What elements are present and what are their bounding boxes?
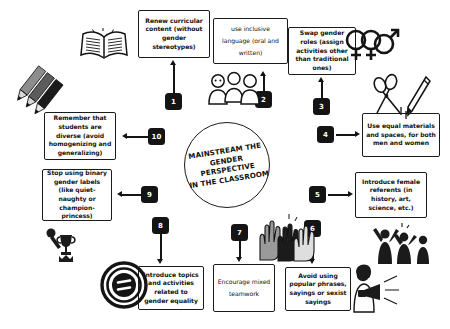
connector-arrowhead-3 — [318, 77, 324, 82]
step-badge-10: 10 — [148, 128, 165, 145]
step-box-9: Stop using binary gender labels (like qu… — [42, 169, 112, 221]
open-book-icon — [78, 28, 130, 64]
connector-arrowhead-10 — [122, 133, 127, 139]
step-badge-8: 8 — [152, 217, 169, 234]
connector-line-7 — [239, 241, 241, 258]
connector-line-8 — [160, 234, 162, 260]
connector-arrowhead-5 — [348, 191, 353, 197]
connector-line-4 — [336, 134, 356, 136]
step-badge-7: 7 — [231, 224, 248, 241]
step-box-7: Encourage mixed teamwork — [213, 264, 275, 312]
colored-pencils-icon — [16, 74, 72, 122]
interlocking-gender-symbols-icon — [340, 22, 402, 64]
connector-arrowhead-8 — [157, 259, 163, 264]
connector-arrowhead-1 — [170, 60, 176, 65]
connector-arrowhead-9 — [117, 191, 122, 197]
equality-sign-seal-icon — [100, 261, 148, 309]
scissors-and-pencil-icon — [370, 75, 434, 123]
step-badge-9: 9 — [141, 186, 158, 203]
center-title-circle: MAINSTREAM THE GENDER PERSPECTIVE IN THE… — [184, 122, 270, 208]
step-badge-4: 4 — [317, 126, 334, 143]
celebrating-women-silhouettes-icon — [372, 222, 434, 266]
person-with-megaphone-icon — [342, 262, 402, 314]
connector-arrowhead-2 — [260, 71, 266, 76]
connector-line-10 — [127, 136, 149, 138]
trophy-and-crown-icon — [44, 227, 88, 263]
speech-bubbles-icon — [207, 72, 261, 106]
connector-arrowhead-7 — [236, 257, 242, 262]
step-box-5: Introduce female referents (in history, … — [355, 172, 427, 218]
infographic-canvas: MAINSTREAM THE GENDER PERSPECTIVE IN THE… — [0, 0, 450, 329]
step-box-1: Renew curricular content (without gender… — [138, 10, 210, 58]
step-badge-1: 1 — [165, 93, 182, 110]
connector-line-5 — [328, 194, 349, 196]
step-box-2: use inclusive language (oral and written… — [213, 18, 288, 64]
connector-arrowhead-4 — [355, 131, 360, 137]
connector-line-1 — [173, 65, 175, 93]
step-badge-5: 5 — [309, 186, 326, 203]
step-badge-3: 3 — [313, 98, 330, 115]
center-title-text: MAINSTREAM THE GENDER PERSPECTIVE IN THE… — [184, 140, 271, 191]
raised-diverse-hands-icon — [256, 214, 318, 262]
connector-line-9 — [122, 194, 142, 196]
